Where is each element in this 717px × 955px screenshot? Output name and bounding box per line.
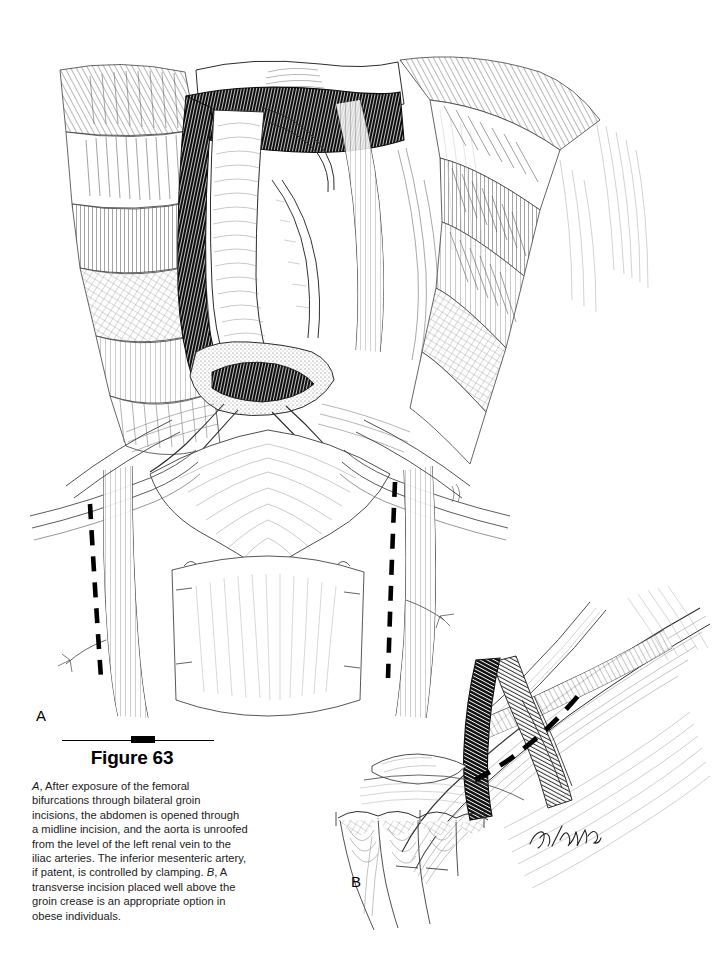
pubic-region-tissue <box>172 556 364 716</box>
figure-page: A B Figure 63 A, After exposure of the f… <box>0 0 717 955</box>
figure-rule-wrap <box>30 734 242 746</box>
figure-caption: A, After exposure of the femoral bifurca… <box>32 779 248 923</box>
panel-a-label: A <box>36 707 46 724</box>
caption-panel-a-text: , After exposure of the femoral bifurcat… <box>32 780 248 878</box>
figure-rule-tab-marker <box>131 736 155 743</box>
figure-title-block: Figure 63 <box>30 734 242 769</box>
figure-number-label: Figure 63 <box>30 747 242 769</box>
panel-b-label: B <box>351 873 361 890</box>
